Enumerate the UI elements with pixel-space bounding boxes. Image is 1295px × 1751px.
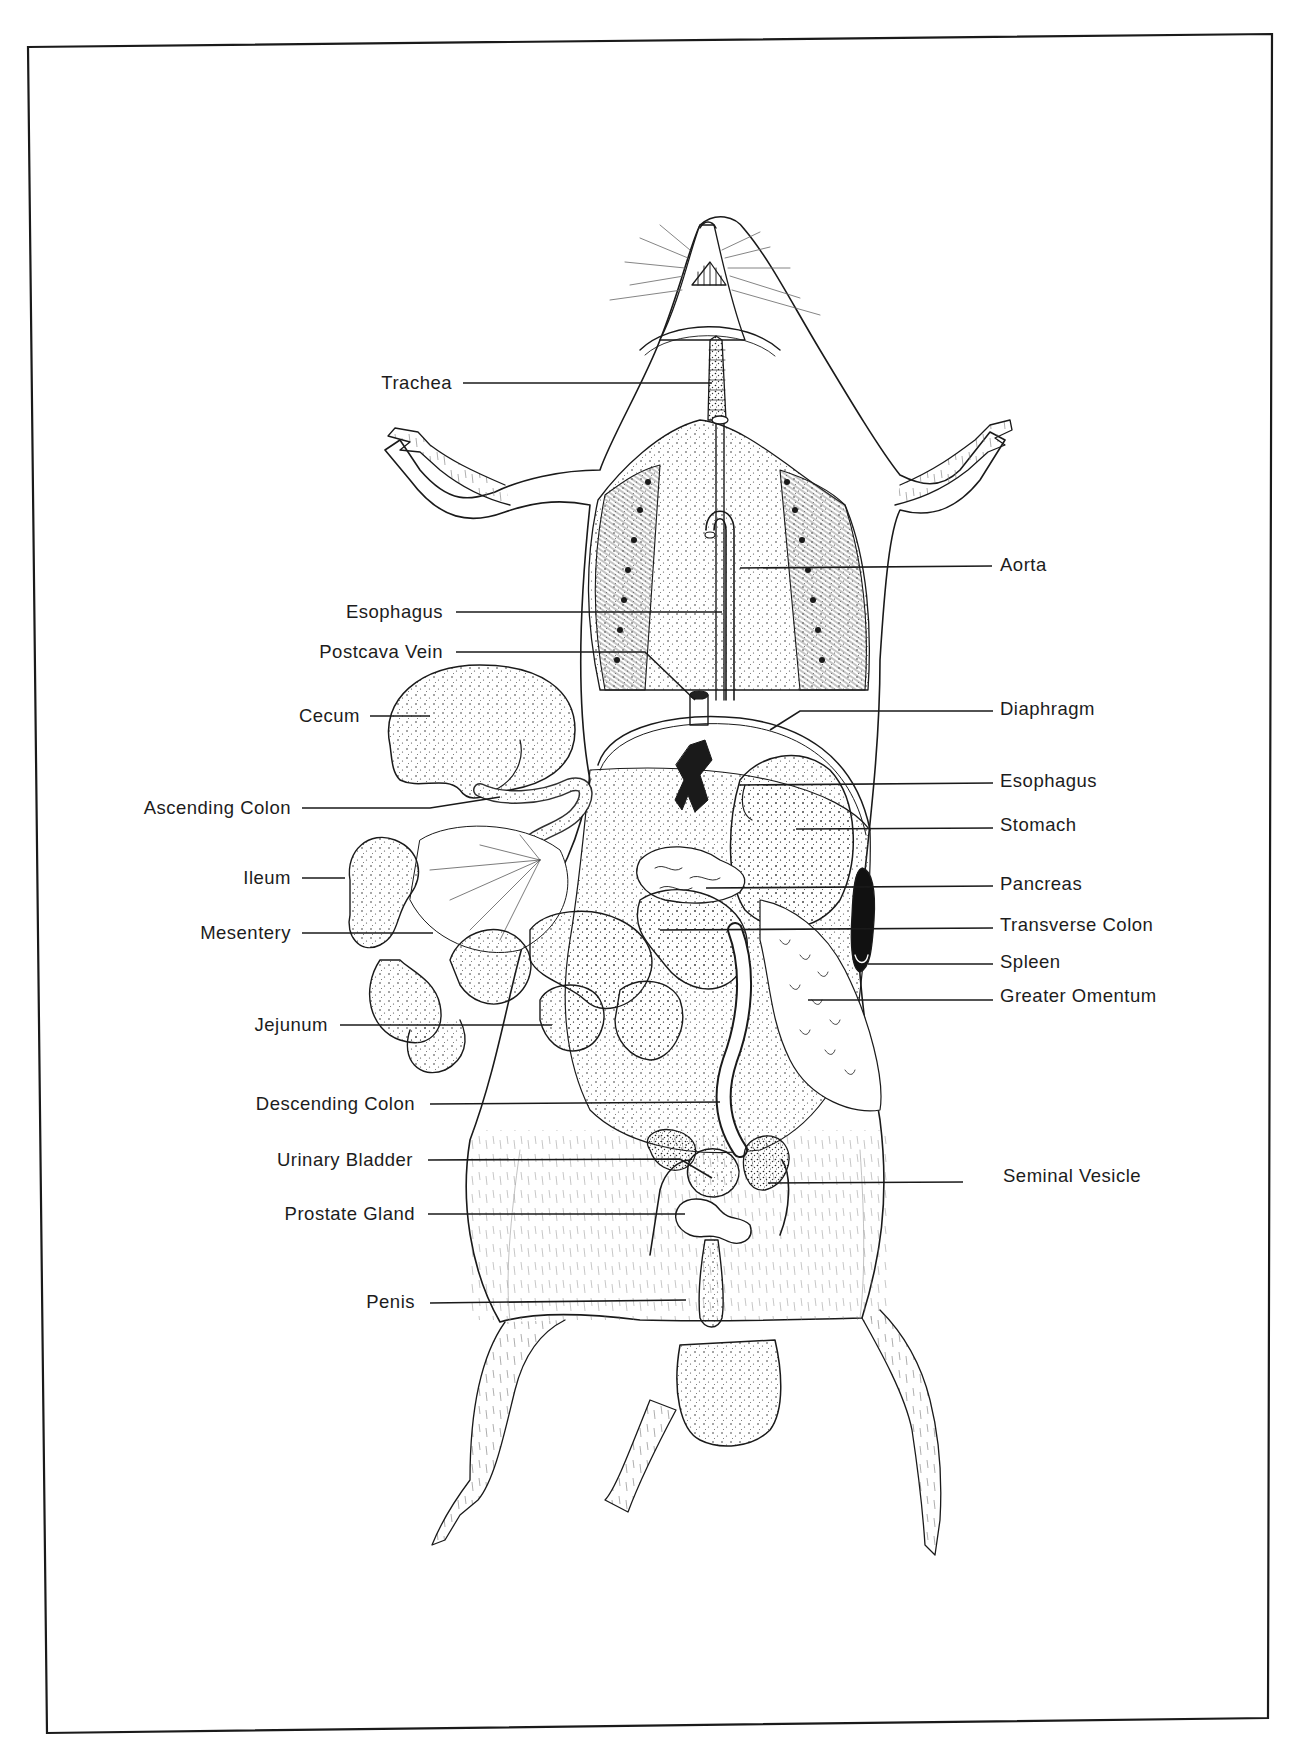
diagram-canvas [0,0,1295,1751]
leader-line-stomach [796,828,993,829]
label-seminal-vesicle: Seminal Vesicle [1003,1165,1141,1187]
label-descending-colon: Descending Colon [256,1093,415,1115]
stomach [730,756,853,928]
label-prostate-gland: Prostate Gland [285,1203,415,1225]
leader-line-ascending-colon [302,797,500,808]
label-transverse-colon: Transverse Colon [1000,914,1153,936]
label-ascending-colon: Ascending Colon [144,797,291,819]
urinary-bladder [688,1149,739,1197]
scrotum [677,1340,781,1446]
label-pancreas: Pancreas [1000,873,1082,895]
label-trachea: Trachea [381,372,452,394]
label-jejunum: Jejunum [255,1014,328,1036]
spleen [851,868,874,972]
label-esophagus-upper: Esophagus [346,601,443,623]
label-urinary-bladder: Urinary Bladder [277,1149,413,1171]
label-penis: Penis [366,1291,415,1313]
penis [699,1240,723,1327]
label-stomach: Stomach [1000,814,1077,836]
label-aorta: Aorta [1000,554,1047,576]
right-hind-leg [862,1310,941,1555]
label-cecum: Cecum [299,705,360,727]
label-greater-omentum: Greater Omentum [1000,985,1157,1007]
label-ileum: Ileum [243,867,291,889]
label-mesentery: Mesentery [200,922,291,944]
label-postcava-vein: Postcava Vein [319,641,443,663]
leader-line-seminal-vesicle [768,1182,963,1183]
cecum [388,665,575,798]
tail [605,1400,676,1512]
label-spleen: Spleen [1000,951,1061,973]
label-esophagus-lower: Esophagus [1000,770,1097,792]
left-hind-leg [432,1320,565,1545]
label-diaphragm: Diaphragm [1000,698,1095,720]
